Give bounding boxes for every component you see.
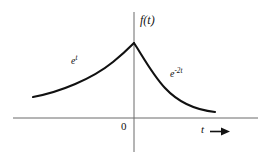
- left-branch-exponent: t: [75, 54, 77, 62]
- origin-label: 0: [121, 121, 127, 132]
- horizontal-axis-label: t: [201, 124, 204, 135]
- right-arrow-icon: [210, 127, 230, 136]
- plot-canvas: [0, 0, 267, 165]
- right-branch-annotation: e-2t: [170, 69, 182, 79]
- curve-left-exponential: [33, 43, 134, 97]
- exponential-figure: f(t) et e-2t 0 t: [0, 0, 267, 165]
- left-branch-annotation: et: [71, 56, 77, 66]
- right-branch-exponent: -2t: [174, 67, 182, 75]
- vertical-axis-label: f(t): [140, 14, 155, 26]
